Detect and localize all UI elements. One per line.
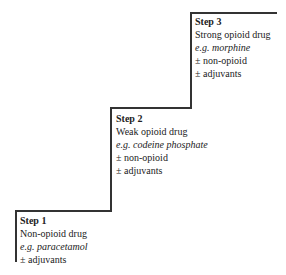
step-3-title: Step 3 xyxy=(195,15,271,28)
step-3-drug: Strong opioid drug xyxy=(195,28,271,41)
step2-top-line xyxy=(110,107,192,109)
step-2-block: Step 2 Weak opioid drug e.g. codeine pho… xyxy=(116,112,208,177)
step-1-extra-1: ± adjuvants xyxy=(20,253,88,266)
step-3-extra-2: ± adjuvants xyxy=(195,67,271,80)
step-2-drug: Weak opioid drug xyxy=(116,125,208,138)
step-1-block: Step 1 Non-opioid drug e.g. paracetamol … xyxy=(20,214,88,266)
step2-riser-line xyxy=(110,107,112,212)
step-2-example: e.g. codeine phosphate xyxy=(116,138,208,151)
step3-top-line xyxy=(190,12,277,14)
step-1-example: e.g. paracetamol xyxy=(20,240,88,253)
step-3-example: e.g. morphine xyxy=(195,41,271,54)
step1-riser-line xyxy=(15,210,17,262)
step1-top-line xyxy=(15,210,112,212)
step3-riser-line xyxy=(190,12,192,109)
step-2-extra-1: ± non-opioid xyxy=(116,151,208,164)
step-1-drug: Non-opioid drug xyxy=(20,227,88,240)
step-1-title: Step 1 xyxy=(20,214,88,227)
step-3-extra-1: ± non-opioid xyxy=(195,54,271,67)
step-2-title: Step 2 xyxy=(116,112,208,125)
step-2-extra-2: ± adjuvants xyxy=(116,164,208,177)
step-3-block: Step 3 Strong opioid drug e.g. morphine … xyxy=(195,15,271,80)
